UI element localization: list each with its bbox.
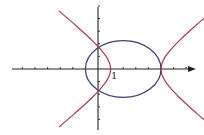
diagram-canvas bbox=[0, 0, 204, 135]
conic-diagram: 1 bbox=[0, 0, 204, 135]
x-axis-arrow-icon bbox=[188, 66, 196, 72]
x-tick-label-1: 1 bbox=[111, 71, 117, 81]
